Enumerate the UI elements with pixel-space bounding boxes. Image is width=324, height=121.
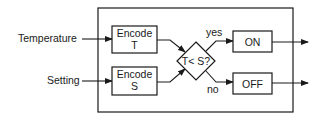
branch-label-yes: yes (206, 26, 222, 38)
branch-label-no: no (207, 83, 219, 95)
encode-t-line2: T (131, 39, 138, 51)
on-block: ON (233, 31, 272, 52)
encode-t-block: Encode T (112, 26, 157, 53)
off-label: OFF (242, 78, 263, 90)
encode-s-line2: S (131, 80, 138, 92)
input-label-setting: Setting (47, 74, 80, 86)
encode-s-line1: Encode (117, 68, 153, 80)
encode-s-block: Encode S (112, 67, 157, 95)
encode-t-line1: Encode (117, 27, 153, 39)
off-block: OFF (233, 73, 272, 94)
decision-label: T< S? (182, 55, 210, 67)
flow-diagram: Temperature Setting Encode T Encode S T<… (0, 0, 324, 121)
on-label: ON (245, 36, 261, 48)
input-label-temperature: Temperature (18, 32, 77, 44)
